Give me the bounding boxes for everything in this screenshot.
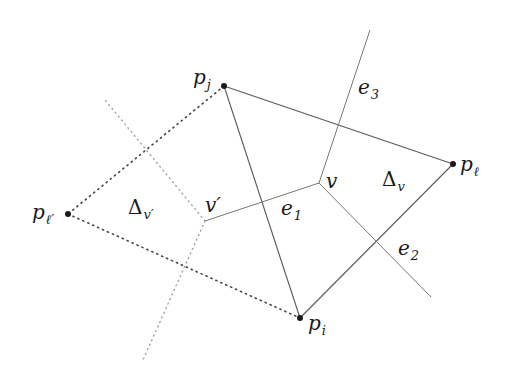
voronoi-delaunay-diagram: pj pℓ pi pℓ′ v v′ e1 e2 e3 Δv Δv′	[0, 0, 507, 376]
edge-e2	[319, 183, 431, 297]
triangle-delta-v-prime	[68, 86, 300, 318]
label-delta-v: Δv	[382, 167, 405, 194]
edge-e3	[319, 30, 370, 183]
point-p-l-prime	[65, 211, 71, 217]
label-e2: e2	[398, 236, 419, 263]
voronoi-edges-v-prime	[105, 100, 205, 362]
label-e1: e1	[281, 196, 302, 223]
label-p-j: pj	[193, 65, 211, 92]
point-p-l	[450, 161, 456, 167]
triangle-delta-v	[224, 86, 453, 318]
point-p-i	[297, 315, 303, 321]
label-e3: e3	[358, 75, 379, 102]
label-p-l: pℓ	[460, 152, 480, 179]
label-p-l-prime: pℓ′	[32, 200, 54, 227]
label-delta-v-prime: Δv′	[128, 195, 154, 222]
point-p-j	[221, 83, 227, 89]
label-p-i: pi	[308, 311, 326, 338]
label-v-prime: v′	[205, 193, 221, 217]
label-v: v	[326, 169, 338, 193]
